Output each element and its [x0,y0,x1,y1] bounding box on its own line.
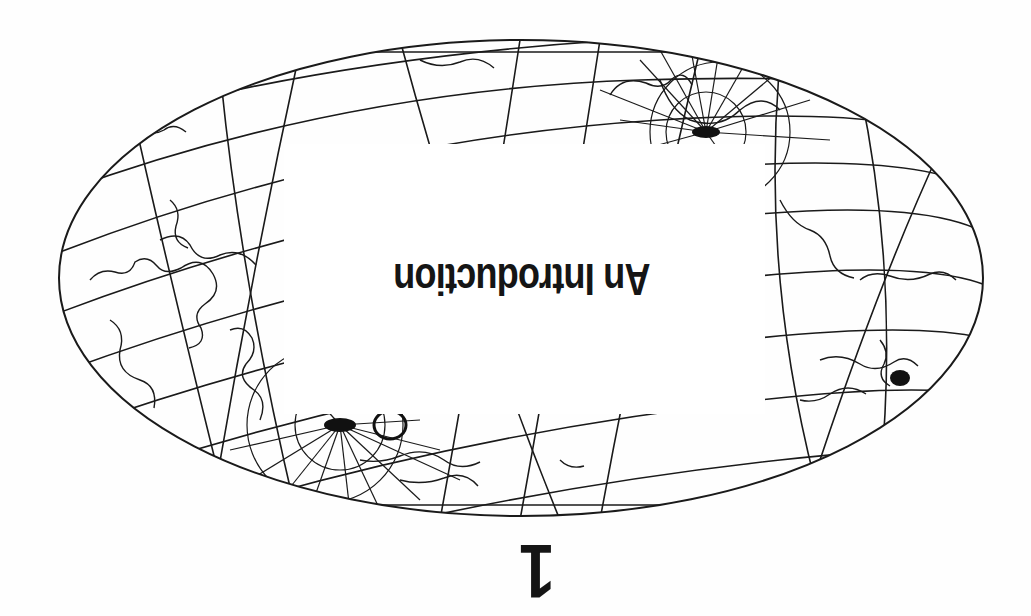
chapter-title: An Introduction [394,254,650,304]
chapter-title-box: An Introduction [284,144,765,414]
chapter-number: 1 [519,533,555,609]
book-page: An Introduction 1 [0,0,1031,616]
